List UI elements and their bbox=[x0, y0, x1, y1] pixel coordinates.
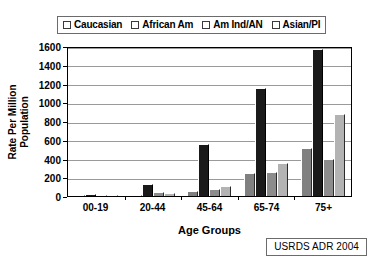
bar bbox=[74, 195, 85, 197]
bar bbox=[266, 172, 277, 196]
y-tick-mark bbox=[63, 197, 67, 198]
bar bbox=[255, 88, 266, 196]
bar bbox=[131, 195, 142, 197]
x-tick-mark bbox=[294, 196, 295, 200]
x-axis-ticks: 00-1920-4445-6465-7475+ bbox=[67, 202, 352, 213]
x-tick-mark bbox=[238, 196, 239, 200]
x-tick-mark bbox=[181, 196, 182, 200]
y-tick-label: 1400 bbox=[39, 60, 61, 71]
legend-label: African Am bbox=[142, 19, 193, 30]
chart-legend: Caucasian African Am Am Ind/AN Asian/PI bbox=[57, 16, 326, 34]
bar bbox=[244, 173, 255, 196]
bar bbox=[209, 189, 220, 197]
y-tick-label: 1200 bbox=[39, 79, 61, 90]
bar bbox=[198, 144, 209, 196]
legend-item-caucasian: Caucasian bbox=[63, 19, 122, 30]
bar bbox=[301, 148, 312, 196]
bar bbox=[85, 194, 96, 196]
y-axis-title-line2: Population bbox=[18, 84, 30, 159]
bar bbox=[96, 195, 107, 197]
bar bbox=[323, 159, 334, 196]
bar bbox=[312, 49, 323, 196]
x-axis-title: Age Groups bbox=[67, 224, 352, 236]
x-tick-label: 75+ bbox=[295, 202, 352, 213]
legend-item-am-ind-an: Am Ind/AN bbox=[202, 19, 262, 30]
legend-item-asian-pi: Asian/PI bbox=[272, 19, 321, 30]
bar bbox=[187, 191, 198, 196]
bar bbox=[164, 193, 175, 196]
y-tick-label: 200 bbox=[44, 173, 61, 184]
bar bbox=[107, 195, 118, 197]
x-tick-label: 20-44 bbox=[124, 202, 181, 213]
y-axis-title: Rate Per Million Population bbox=[6, 47, 30, 197]
legend-swatch-icon bbox=[131, 21, 139, 29]
x-tick-label: 45-64 bbox=[181, 202, 238, 213]
bar-group bbox=[238, 48, 295, 196]
x-tick-label: 00-19 bbox=[67, 202, 124, 213]
y-tick-label: 1600 bbox=[39, 42, 61, 53]
bar-group bbox=[125, 48, 182, 196]
bar bbox=[277, 163, 288, 196]
legend-label: Asian/PI bbox=[283, 19, 321, 30]
y-axis-title-line1: Rate Per Million bbox=[6, 84, 18, 159]
bar bbox=[220, 186, 231, 196]
y-tick-label: 1000 bbox=[39, 98, 61, 109]
bar-groups bbox=[68, 48, 351, 196]
plot-area bbox=[67, 47, 352, 197]
bar bbox=[153, 192, 164, 196]
legend-swatch-icon bbox=[202, 21, 210, 29]
x-tick-label: 65-74 bbox=[238, 202, 295, 213]
y-tick-label: 0 bbox=[55, 192, 61, 203]
y-tick-label: 400 bbox=[44, 154, 61, 165]
legend-swatch-icon bbox=[63, 21, 71, 29]
bar-group bbox=[181, 48, 238, 196]
legend-label: Am Ind/AN bbox=[213, 19, 262, 30]
x-tick-mark bbox=[125, 196, 126, 200]
y-tick-label: 800 bbox=[44, 117, 61, 128]
legend-swatch-icon bbox=[272, 21, 280, 29]
bar-group bbox=[68, 48, 125, 196]
bar bbox=[142, 184, 153, 196]
legend-item-african-am: African Am bbox=[131, 19, 193, 30]
legend-label: Caucasian bbox=[74, 19, 122, 30]
y-tick-label: 600 bbox=[44, 135, 61, 146]
source-note: USRDS ADR 2004 bbox=[266, 238, 367, 256]
bar bbox=[334, 114, 345, 196]
bar-group bbox=[294, 48, 351, 196]
bar-chart: Caucasian African Am Am Ind/AN Asian/PI … bbox=[0, 0, 381, 270]
